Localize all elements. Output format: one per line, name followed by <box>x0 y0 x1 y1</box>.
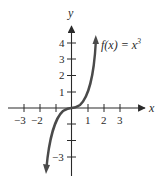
y-tick-label-2: 2 <box>59 69 65 81</box>
x-tick-label-neg3: −3 <box>14 114 26 126</box>
curve-arrow-top-icon <box>93 35 100 44</box>
function-label: f(x) = x3 <box>101 37 141 52</box>
curve-arrow-bottom-icon <box>43 164 50 174</box>
y-tick-label-3: 3 <box>59 53 65 65</box>
cubic-function-graph: y x 4 3 2 1 −3 −3 −2 1 2 3 f(x) = x3 <box>0 0 163 185</box>
y-tick-label-neg3: −3 <box>52 151 64 163</box>
x-tick-label-neg2: −2 <box>31 114 43 126</box>
y-axis-label: y <box>67 6 74 20</box>
y-tick-label-1: 1 <box>59 86 65 98</box>
x-tick-label-3: 3 <box>117 114 123 126</box>
y-tick-label-4: 4 <box>59 37 65 49</box>
x-axis-label: x <box>148 101 155 115</box>
x-tick-label-1: 1 <box>85 114 91 126</box>
x-tick-label-2: 2 <box>101 114 107 126</box>
